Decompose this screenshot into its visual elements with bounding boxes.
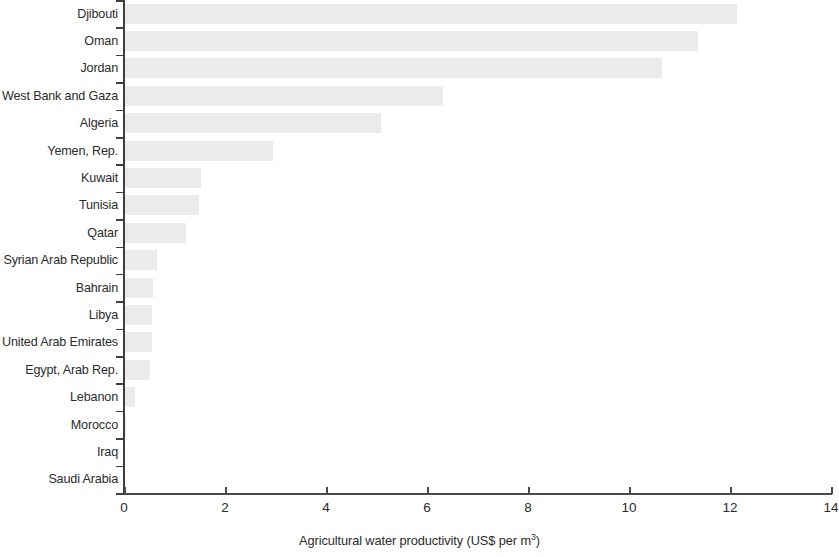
category-label: Bahrain [76,281,118,294]
x-axis-tick-label: 0 [120,500,128,515]
y-axis-tick [116,247,124,249]
y-axis-tick [116,82,124,84]
category-label: West Bank and Gaza [2,90,118,103]
chart-row: Iraq [0,438,839,465]
category-label: Iraq [97,446,118,459]
bar [124,223,186,243]
bar [124,113,381,133]
y-axis-tick [116,274,124,276]
y-axis-tick [116,192,124,194]
chart-row: Saudi Arabia [0,466,839,493]
chart-row: Tunisia [0,192,839,219]
bar [124,278,153,298]
category-label: Yemen, Rep. [47,144,118,157]
y-axis-tick [116,301,124,303]
chart-row: Algeria [0,110,839,137]
category-label: Lebanon [70,391,118,404]
y-axis-tick [116,0,124,2]
y-axis-tick [116,438,124,440]
y-axis-tick [116,411,124,413]
y-axis-tick [116,493,124,495]
y-axis-tick [116,27,124,29]
y-axis-tick [116,356,124,358]
category-label: Algeria [80,117,118,130]
chart-row: Morocco [0,411,839,438]
category-label: Syrian Arab Republic [3,254,118,267]
y-axis-tick [116,383,124,385]
chart-row: United Arab Emirates [0,329,839,356]
bar [124,4,737,24]
bar [124,141,273,161]
chart-row: Qatar [0,219,839,246]
chart-row: Jordan [0,55,839,82]
x-axis-tick [225,487,227,494]
category-label: Egypt, Arab Rep. [25,363,118,376]
y-axis-tick [116,55,124,57]
chart-row: Egypt, Arab Rep. [0,356,839,383]
x-axis-line [123,493,832,495]
x-axis-tick [124,487,126,494]
x-axis-title-tail: ) [536,533,540,548]
x-axis-tick-label: 6 [423,500,431,515]
x-axis-tick-label: 14 [823,500,838,515]
y-axis-tick [116,164,124,166]
x-axis-tick-label: 10 [621,500,636,515]
x-axis-tick-label: 2 [221,500,229,515]
chart-row: West Bank and Gaza [0,82,839,109]
y-axis-tick [116,219,124,221]
chart-row: Libya [0,301,839,328]
y-axis-tick [116,137,124,139]
category-label: Jordan [80,62,118,75]
category-label: Oman [84,35,118,48]
x-axis-tick-label: 12 [722,500,737,515]
x-axis-tick [629,487,631,494]
bar [124,31,698,51]
category-label: Qatar [87,227,118,240]
x-axis-tick [326,487,328,494]
bar [124,86,443,106]
x-axis-tick [730,487,732,494]
horizontal-bar-chart: DjiboutiOmanJordanWest Bank and GazaAlge… [0,0,839,557]
category-label: Tunisia [79,199,118,212]
x-axis-tick-label: 4 [322,500,330,515]
chart-row: Djibouti [0,0,839,27]
bar [124,387,135,407]
category-label: United Arab Emirates [2,336,118,349]
chart-row: Lebanon [0,383,839,410]
bar [124,250,157,270]
category-label: Libya [89,309,118,322]
category-label: Saudi Arabia [48,473,118,486]
category-label: Morocco [71,418,118,431]
chart-row: Oman [0,27,839,54]
bar [124,360,150,380]
bar [124,332,152,352]
x-axis-tick [528,487,530,494]
x-axis-tick [831,487,833,494]
x-axis-tick-label: 8 [524,500,532,515]
bar [124,195,199,215]
x-axis-tick [427,487,429,494]
chart-row: Syrian Arab Republic [0,247,839,274]
bar [124,58,662,78]
category-label: Djibouti [77,7,118,20]
chart-rows: DjiboutiOmanJordanWest Bank and GazaAlge… [0,0,839,493]
x-axis-title-base: Agricultural water productivity (US$ per… [299,533,531,548]
category-label: Kuwait [81,172,118,185]
y-axis-tick [116,466,124,468]
chart-row: Yemen, Rep. [0,137,839,164]
chart-row: Kuwait [0,164,839,191]
y-axis-tick [116,110,124,112]
chart-row: Bahrain [0,274,839,301]
bar [124,168,201,188]
bar [124,305,152,325]
x-axis-title: Agricultural water productivity (US$ per… [0,532,839,548]
y-axis-tick [116,329,124,331]
